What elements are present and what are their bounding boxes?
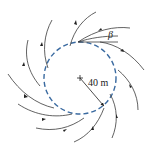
beta-label: β bbox=[107, 29, 113, 40]
streamline bbox=[70, 12, 96, 46]
arrowheads bbox=[22, 20, 132, 132]
vortex-diagram: β 40 m bbox=[0, 0, 152, 146]
radius-label: 40 m bbox=[88, 77, 109, 88]
streamlines bbox=[8, 12, 144, 142]
